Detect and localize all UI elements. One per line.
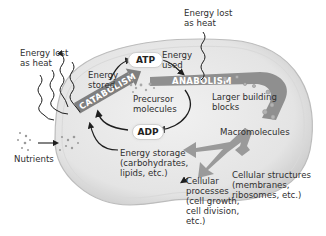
- cellular-structures-label: Cellular structures (membranes, ribosome…: [232, 170, 311, 200]
- metabolism-diagram: ANABOLISM CATABOLISM: [0, 0, 326, 236]
- nutrients-label: Nutrients: [14, 154, 54, 164]
- energy-stored-label: Energy stored: [88, 70, 118, 90]
- anabolism-label: ANABOLISM: [172, 76, 232, 86]
- heat-label-top: Energy lost as heat: [184, 8, 232, 28]
- precursor-label: Precursor molecules: [133, 94, 177, 114]
- adp-badge: ADP: [132, 124, 164, 140]
- heat-label-left: Energy lost as heat: [20, 48, 68, 68]
- macromolecules-label: Macromolecules: [220, 127, 290, 137]
- energy-used-label: Energy used: [162, 50, 192, 70]
- energy-storage-label: Energy storage (carbohydrates, lipids, e…: [120, 148, 188, 178]
- larger-blocks-label: Larger building blocks: [212, 92, 277, 112]
- atp-badge: ATP: [128, 52, 163, 68]
